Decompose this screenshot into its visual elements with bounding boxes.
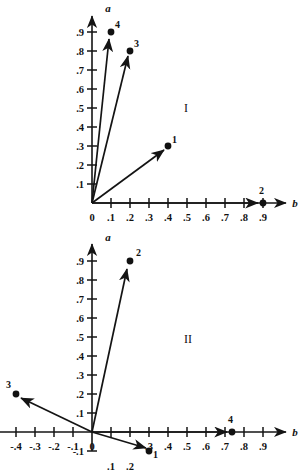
y-ticklabel: .7 — [76, 294, 84, 305]
panel-title-two: II — [184, 332, 192, 346]
x-ticklabel: .4 — [164, 441, 173, 452]
figure-page: 0 .1 .2 .3 .4 .5 .6 .7 .8 .9 .1 .2 .3 .4… — [0, 0, 307, 472]
x-ticklabel: .9 — [259, 212, 267, 223]
chart-one-x-ticklabels: 0 .1 .2 .3 .4 .5 .6 .7 .8 .9 — [89, 212, 267, 223]
point-label-2: 2 — [136, 247, 141, 258]
y-ticklabel: .6 — [76, 84, 84, 95]
y-ticklabel: .9 — [76, 256, 84, 267]
chart-two-axes — [0, 244, 286, 451]
chart-two-x-ticklabels-dropped: .1 .2 — [107, 461, 134, 472]
x-ticklabel: .5 — [183, 212, 191, 223]
x-ticklabel: .8 — [240, 212, 248, 223]
x-ticklabel: .1 — [107, 212, 115, 223]
y-ticklabel: .5 — [76, 332, 84, 343]
chart-one-vectors — [92, 39, 258, 203]
chart-two-svg: -.4 -.3 -.2 -.1 0 .3 .4 .5 .6 .7 .8 .9 .… — [0, 230, 307, 472]
x-ticklabel: -.3 — [29, 441, 40, 452]
y-ticklabel: .3 — [76, 141, 84, 152]
y-ticklabel: .2 — [76, 389, 84, 400]
chart-one-svg: 0 .1 .2 .3 .4 .5 .6 .7 .8 .9 .1 .2 .3 .4… — [0, 0, 307, 236]
x-axis-label: b — [292, 426, 298, 438]
y-ticklabel: .7 — [76, 65, 84, 76]
x-ticklabel-dropped: .1 — [107, 461, 115, 472]
chart-two-points — [13, 258, 236, 455]
chart-two-point-labels: 1 2 3 4 — [6, 247, 233, 460]
y-ticklabel: -.1 — [73, 446, 84, 457]
y-ticklabel: .2 — [76, 160, 84, 171]
chart-one-points — [108, 29, 267, 207]
panel-title-one: I — [184, 101, 188, 115]
point-label-3: 3 — [6, 379, 11, 390]
point-label-1: 1 — [172, 134, 177, 145]
point-label-1: 1 — [153, 449, 158, 460]
data-point-3 — [13, 391, 20, 398]
vector-2 — [92, 269, 127, 432]
x-ticklabel: 0 — [89, 441, 94, 452]
data-point-4 — [229, 429, 236, 436]
y-ticklabel: .1 — [76, 179, 84, 190]
x-ticklabel: .9 — [259, 441, 267, 452]
y-ticklabel: .1 — [76, 408, 84, 419]
x-ticklabel: .7 — [221, 212, 229, 223]
x-ticklabel: .7 — [221, 441, 229, 452]
y-ticklabel: .9 — [76, 27, 84, 38]
data-point-2 — [127, 258, 134, 265]
x-ticklabel: .2 — [126, 212, 134, 223]
vector-4 — [92, 39, 109, 203]
data-point-1 — [165, 143, 172, 150]
point-label-3: 3 — [134, 38, 139, 49]
y-ticklabel: .8 — [76, 275, 84, 286]
y-ticklabel: .4 — [76, 122, 85, 133]
y-ticklabel: .6 — [76, 313, 84, 324]
x-ticklabel: .6 — [202, 212, 210, 223]
data-point-1 — [146, 448, 153, 455]
y-axis-label: a — [105, 2, 111, 14]
x-ticklabel: -.2 — [48, 441, 59, 452]
x-ticklabel: .5 — [183, 441, 191, 452]
x-ticklabel: 0 — [89, 212, 94, 223]
y-axis-label: a — [105, 231, 111, 243]
point-label-4: 4 — [115, 19, 120, 30]
y-ticklabel: .3 — [76, 370, 84, 381]
vector-1 — [92, 432, 146, 448]
chart-two-vectors — [21, 269, 227, 448]
chart-one-y-ticklabels: .1 .2 .3 .4 .5 .6 .7 .8 .9 — [76, 27, 85, 190]
x-ticklabel: -.4 — [10, 441, 22, 452]
data-point-4 — [108, 29, 115, 36]
x-ticklabel-dropped: .2 — [126, 461, 134, 472]
x-ticklabel: .8 — [240, 441, 248, 452]
point-label-2: 2 — [259, 185, 264, 196]
point-label-4: 4 — [228, 414, 233, 425]
y-ticklabel: .5 — [76, 103, 84, 114]
x-ticklabel: .6 — [202, 441, 210, 452]
chart-panel-one: 0 .1 .2 .3 .4 .5 .6 .7 .8 .9 .1 .2 .3 .4… — [0, 0, 307, 236]
y-ticklabel: .4 — [76, 351, 85, 362]
data-point-2 — [260, 200, 267, 207]
x-ticklabel: .4 — [164, 212, 173, 223]
y-ticklabel: .8 — [76, 46, 84, 57]
data-point-3 — [127, 48, 134, 55]
chart-one-axes — [92, 16, 286, 203]
x-axis-label: b — [292, 197, 298, 209]
chart-panel-two: -.4 -.3 -.2 -.1 0 .3 .4 .5 .6 .7 .8 .9 .… — [0, 230, 307, 472]
x-ticklabel: .3 — [145, 212, 153, 223]
